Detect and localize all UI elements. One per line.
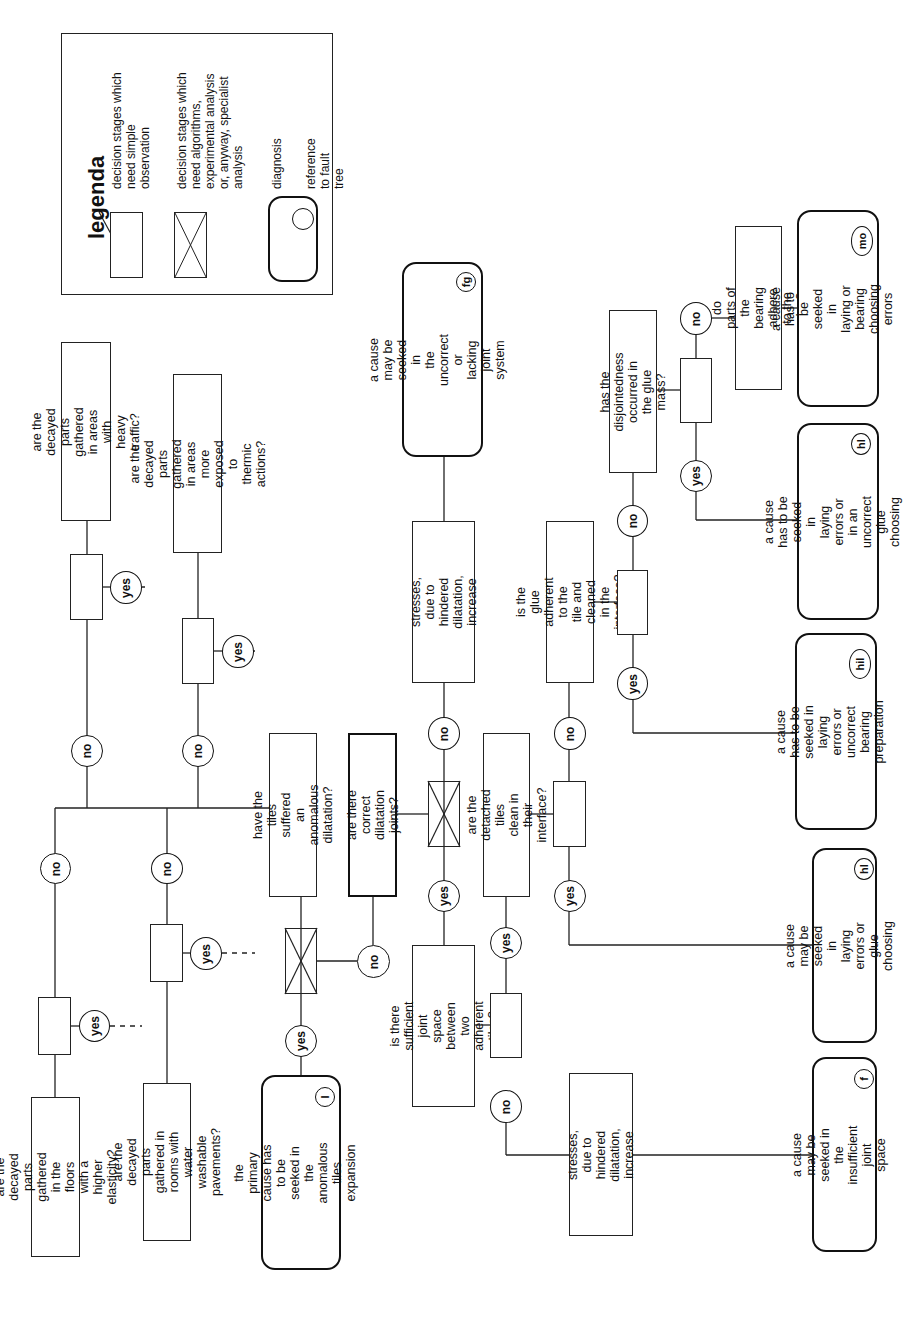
question-text: are the decayed parts gathered in areas … [30, 407, 142, 456]
question-text: are the decayed parts gathered in areas … [128, 439, 268, 488]
question-text: is the glue adherent to the tile and cle… [514, 575, 626, 630]
diagnosis-f: a cause may be seeked in the insufficien… [812, 1057, 877, 1252]
decision-box-sufficient [490, 993, 522, 1058]
diagnosis-hil: a cause has to be seeked in laying error… [795, 633, 877, 830]
diagnosis-I: the primary cause has to be seeked in th… [261, 1075, 341, 1270]
diagnosis-text: a cause may be seeked in the insufficien… [790, 1125, 888, 1184]
question-heavy-traffic: are the decayed parts gathered in areas … [61, 342, 111, 521]
decision-box-detached [553, 781, 586, 847]
legend-title: legenda [84, 156, 110, 239]
legend-specialist-box [174, 212, 207, 278]
yes-label: yes [490, 927, 522, 959]
yes-label: yes [617, 667, 648, 700]
specialist-box-joints [428, 781, 460, 847]
legend-simple-text: decision stages which need simple observ… [110, 72, 152, 189]
question-text: are the decayed parts gathered in rooms … [111, 1128, 223, 1196]
yes-label: yes [554, 880, 586, 912]
question-detached-tiles: are the detached tiles clean in their in… [483, 733, 530, 897]
question-text: are there correct dilatation joints? [345, 790, 401, 840]
no-label: no [428, 717, 460, 750]
decision-box-disjointedness [680, 358, 712, 423]
question-text: are the detached tiles clean in their in… [465, 788, 549, 843]
statement-stresses-lower: stresses, due to hindered dilatation, in… [569, 1073, 633, 1236]
question-glue-adherent: is the glue adherent to the tile and cle… [546, 521, 594, 683]
legend-reference-circle [292, 208, 314, 230]
diagnosis-hl-upper: a cause has to be seeked in laying error… [797, 423, 879, 620]
specialist-box-anomalous [285, 928, 317, 994]
legend-diagnosis-box [268, 196, 318, 282]
yes-label: yes [222, 635, 254, 668]
no-label: no [617, 505, 648, 537]
no-label: no [490, 1090, 522, 1123]
fault-tree-reference: hil [849, 649, 871, 679]
question-elasticity: are the decayed parts gathered in the fl… [31, 1097, 80, 1257]
fault-tree-reference: I [315, 1087, 335, 1107]
question-disjointedness: has the disjointedness occurred in the g… [609, 310, 657, 473]
yes-label: yes [285, 1025, 317, 1057]
fault-tree-reference: fg [456, 272, 476, 292]
yes-label: yes [428, 880, 460, 912]
question-text: have the tiles suffered an anomalous dil… [251, 784, 335, 845]
no-label: no [71, 735, 103, 767]
diagnosis-fg: a cause may be seeked in the uncorrect o… [402, 262, 483, 457]
decision-box-elasticity [38, 997, 71, 1055]
fault-tree-reference: f [854, 1069, 874, 1089]
statement-text: stresses, due to hindered dilatation, in… [566, 1128, 636, 1182]
yes-label: yes [680, 460, 712, 492]
legend-panel: legenda decision stages which need simpl… [61, 33, 333, 295]
no-label: no [40, 853, 71, 884]
fault-tree-reference: hl [854, 858, 874, 880]
diagnosis-text: a cause may be seeked in the uncorrect o… [367, 333, 507, 385]
no-label: no [554, 717, 586, 750]
yes-label: yes [79, 1010, 110, 1042]
decision-box-water [150, 924, 183, 982]
question-dilatation-joints: are there correct dilatation joints? [348, 733, 397, 897]
diagnosis-text: a cause may be seeked in laying errors o… [783, 920, 895, 970]
question-text: has the disjointedness occurred in the g… [598, 352, 668, 431]
question-text: is there sufficient joint space between … [388, 1001, 500, 1050]
diagnosis-text: a cause has to be seeked in laying or be… [769, 283, 895, 333]
diagnosis-text: a cause has to be seeked in laying error… [774, 700, 886, 763]
question-thermic: are the decayed parts gathered in areas … [173, 374, 222, 553]
decision-box-glue [617, 570, 648, 635]
decision-box-traffic [70, 554, 103, 620]
statement-text: stresses, due to hindered dilatation, in… [409, 575, 479, 629]
decision-box-thermic [182, 618, 214, 684]
diagnosis-text: the primary cause has to be seeked in th… [232, 1142, 358, 1203]
statement-stresses-upper: stresses, due to hindered dilatation, in… [412, 521, 475, 683]
no-label: no [680, 302, 712, 335]
fault-tree-reference: mo [851, 226, 873, 256]
no-label: no [357, 945, 390, 978]
question-water: are the decayed parts gathered in rooms … [143, 1083, 191, 1241]
legend-diagnosis-text: diagnosis [270, 138, 284, 189]
fault-tree-reference: hl [851, 433, 871, 455]
legend-specialist-text: decision stages which need algorithms, e… [175, 72, 245, 189]
diagnosis-mo: a cause has to be seeked in laying or be… [797, 210, 879, 407]
diagnosis-hl-lower: a cause may be seeked in laying errors o… [812, 848, 877, 1043]
legend-reference-text: reference to fault tree [304, 138, 346, 189]
question-text: are the decayed parts gathered in the fl… [0, 1150, 119, 1205]
question-sufficient-joint: is there sufficient joint space between … [412, 945, 475, 1107]
question-anomalous-dilatation: have the tiles suffered an anomalous dil… [269, 733, 317, 897]
diagnosis-text: a cause has to be seeked in laying error… [762, 495, 902, 547]
yes-label: yes [190, 937, 222, 970]
legend-simple-box [110, 212, 143, 278]
yes-label: yes [110, 571, 142, 604]
no-label: no [151, 853, 183, 884]
no-label: no [182, 735, 214, 767]
